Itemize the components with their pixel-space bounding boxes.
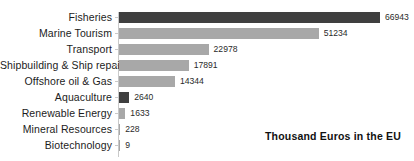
bar — [119, 12, 380, 23]
bar-value-label: 66943 — [385, 9, 409, 25]
axis-tick — [115, 97, 118, 98]
bar-track: 14344 — [119, 73, 414, 89]
bar-track: 51234 — [119, 25, 414, 41]
bar-row: Marine Tourism51234 — [0, 25, 414, 41]
bar-value-label: 228 — [125, 121, 139, 137]
bar-track: 1633 — [119, 105, 414, 121]
bar-track: 22978 — [119, 41, 414, 57]
category-label: Mineral Resources — [0, 121, 112, 137]
bar-row: Offshore oil & Gas14344 — [0, 73, 414, 89]
bar — [119, 44, 209, 55]
category-label: Transport — [0, 41, 112, 57]
axis-tick — [115, 129, 118, 130]
category-label: Offshore oil & Gas — [0, 73, 112, 89]
bar-track: 17891 — [119, 57, 414, 73]
bar-track: 2640 — [119, 89, 414, 105]
axis-tick — [115, 65, 118, 66]
bar-value-label: 17891 — [194, 57, 218, 73]
bar-value-label: 14344 — [180, 73, 204, 89]
bar — [119, 92, 129, 103]
category-label: Fisheries — [0, 9, 112, 25]
chart-annotation: Thousand Euros in the EU — [258, 130, 408, 142]
bar-value-label: 22978 — [214, 41, 238, 57]
bar-chart: Fisheries66943Marine Tourism51234Transpo… — [0, 0, 414, 161]
axis-tick — [115, 49, 118, 50]
category-label: Renewable Energy — [0, 105, 112, 121]
category-label: Shipbuilding & Ship repair — [0, 57, 112, 73]
bar — [119, 140, 120, 151]
bar — [119, 108, 125, 119]
bar-row: Shipbuilding & Ship repair17891 — [0, 57, 414, 73]
bar-row: Fisheries66943 — [0, 9, 414, 25]
bar-value-label: 9 — [125, 137, 130, 153]
category-label: Biotechnology — [0, 137, 112, 153]
bar — [119, 76, 175, 87]
bar-track: 66943 — [119, 9, 414, 25]
bar-row: Renewable Energy1633 — [0, 105, 414, 121]
bar — [119, 124, 120, 135]
bar-row: Aquaculture2640 — [0, 89, 414, 105]
bar — [119, 28, 319, 39]
axis-tick — [115, 113, 118, 114]
bar-value-label: 1633 — [130, 105, 149, 121]
bar-row: Transport22978 — [0, 41, 414, 57]
axis-tick — [115, 33, 118, 34]
axis-tick — [115, 81, 118, 82]
bar — [119, 60, 189, 71]
bar-value-label: 2640 — [134, 89, 153, 105]
category-label: Marine Tourism — [0, 25, 112, 41]
axis-tick — [115, 145, 118, 146]
category-label: Aquaculture — [0, 89, 112, 105]
axis-tick — [115, 17, 118, 18]
bar-value-label: 51234 — [324, 25, 348, 41]
